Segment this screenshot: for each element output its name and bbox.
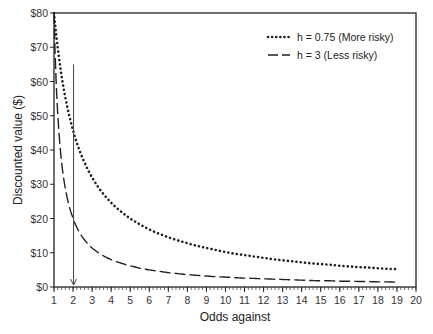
y-tick-label: $10 [30, 247, 48, 259]
y-tick-label: $30 [30, 178, 48, 190]
x-tick-label: 17 [353, 294, 365, 306]
y-tick-label: $50 [30, 110, 48, 122]
x-tick-label: 18 [372, 294, 384, 306]
x-tick-label: 3 [89, 294, 95, 306]
x-tick-label: 15 [315, 294, 327, 306]
x-tick-label: 4 [108, 294, 114, 306]
chart: $0$10$20$30$40$50$60$70$80 1234567891011… [0, 0, 433, 334]
x-axis-title: Odds against [200, 310, 271, 324]
y-tick-label: $40 [30, 144, 48, 156]
x-tick-label: 2 [70, 294, 76, 306]
y-tick-label: $60 [30, 76, 48, 88]
annotation-layer [71, 64, 77, 285]
y-tick-label: $80 [30, 7, 48, 19]
x-tick-label: 20 [410, 294, 422, 306]
legend-label-more-risky: h = 0.75 (More risky) [297, 31, 394, 43]
x-tick-label: 5 [127, 294, 133, 306]
y-tick-label: $70 [30, 41, 48, 53]
y-tick-label: $0 [36, 281, 48, 293]
y-axis-ticks: $0$10$20$30$40$50$60$70$80 [30, 7, 54, 293]
x-tick-label: 16 [334, 294, 346, 306]
legend: h = 0.75 (More risky) h = 3 (Less risky) [268, 31, 394, 61]
x-tick-label: 1 [51, 294, 57, 306]
x-tick-label: 8 [184, 294, 190, 306]
x-tick-label: 6 [146, 294, 152, 306]
x-tick-label: 9 [203, 294, 209, 306]
x-tick-label: 19 [391, 294, 403, 306]
x-tick-label: 11 [239, 294, 250, 306]
legend-label-less-risky: h = 3 (Less risky) [297, 49, 377, 61]
y-tick-label: $20 [30, 213, 48, 225]
x-axis-ticks: 1234567891011121314151617181920 [51, 287, 422, 306]
x-tick-label: 10 [220, 294, 232, 306]
x-tick-label: 12 [258, 294, 270, 306]
x-tick-label: 14 [296, 294, 308, 306]
x-tick-label: 7 [165, 294, 171, 306]
x-tick-label: 13 [277, 294, 289, 306]
y-axis-title: Discounted value ($) [11, 95, 25, 205]
